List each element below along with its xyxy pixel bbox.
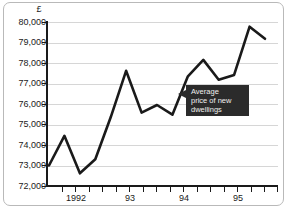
y-axis-tick	[42, 22, 47, 23]
x-axis-tick	[129, 187, 130, 192]
x-axis-tick	[210, 187, 211, 192]
x-tick-label: 95	[218, 193, 258, 203]
x-tick-label: 93	[110, 193, 150, 203]
x-axis-tick	[89, 187, 90, 192]
chart-figure: £ 80,000 79,000 78,000 77,000 76,000 75,…	[0, 0, 289, 210]
x-axis-tick	[251, 187, 252, 192]
x-axis-tick	[102, 187, 103, 192]
x-axis-tick	[264, 187, 265, 192]
x-tick-label: 1992	[56, 193, 96, 203]
x-axis-tick	[156, 187, 157, 192]
y-tick-label: 80,000	[2, 18, 46, 27]
x-axis-line	[46, 185, 278, 187]
y-axis-tick	[42, 104, 47, 105]
x-axis-tick	[237, 187, 238, 192]
callout-line: dwellings	[191, 105, 246, 114]
y-tick-label: 77,000	[2, 79, 46, 88]
callout-pointer-icon	[178, 90, 186, 98]
y-tick-label: 78,000	[2, 59, 46, 68]
x-axis-tick	[62, 187, 63, 192]
x-axis-tick	[170, 187, 171, 192]
x-axis-tick	[277, 187, 278, 192]
y-axis-tick	[42, 145, 47, 146]
y-axis-tick	[42, 63, 47, 64]
x-axis-tick	[116, 187, 117, 192]
x-axis-tick	[143, 187, 144, 192]
x-axis-tick	[75, 187, 76, 192]
y-tick-label: 72,000	[2, 182, 46, 191]
x-axis-tick	[224, 187, 225, 192]
callout-line: price of new	[191, 96, 246, 105]
y-tick-label: 73,000	[2, 161, 46, 170]
x-axis-tick	[183, 187, 184, 192]
y-axis-tick	[42, 83, 47, 84]
callout-line: Average	[191, 87, 246, 96]
y-tick-label: 79,000	[2, 38, 46, 47]
y-axis-tick	[42, 165, 47, 166]
y-axis-tick	[42, 42, 47, 43]
x-axis-tick	[197, 187, 198, 192]
y-tick-label: 76,000	[2, 100, 46, 109]
y-axis-tick	[42, 124, 47, 125]
y-tick-label: 75,000	[2, 120, 46, 129]
y-tick-label: 74,000	[2, 141, 46, 150]
y-axis-tick	[42, 186, 47, 187]
series-callout-label: Average price of new dwellings	[186, 85, 249, 116]
y-axis-labels: 80,000 79,000 78,000 77,000 76,000 75,00…	[0, 0, 46, 210]
x-tick-label: 94	[164, 193, 204, 203]
